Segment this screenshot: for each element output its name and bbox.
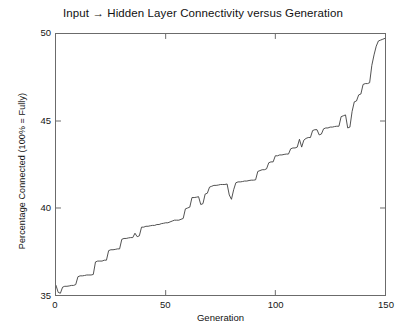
plot-area	[55, 33, 386, 296]
x-tick-50: 50	[145, 300, 185, 310]
x-tick-100: 100	[256, 300, 296, 310]
chart-figure: Input → Hidden Layer Connectivity versus…	[0, 0, 406, 330]
chart-title: Input → Hidden Layer Connectivity versus…	[0, 6, 406, 20]
data-line-svg	[56, 34, 385, 295]
x-tick-0: 0	[35, 300, 75, 310]
x-tick-150: 150	[366, 300, 406, 310]
data-series-line	[56, 38, 385, 293]
x-axis-tick-marks	[166, 34, 276, 295]
x-axis-title: Generation	[55, 312, 386, 323]
y-axis-title-wrapper: Percentage Connected (100% = Fully)	[15, 40, 29, 303]
y-tick-50: 50	[7, 28, 51, 38]
y-axis-tick-marks	[56, 121, 385, 208]
y-axis-title: Percentage Connected (100% = Fully)	[16, 93, 27, 249]
